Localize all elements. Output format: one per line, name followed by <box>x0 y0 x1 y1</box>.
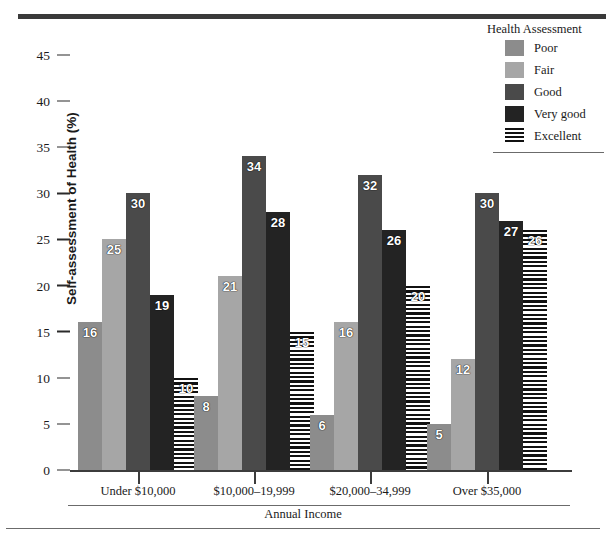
x-axis-label: $10,000–19,999 <box>213 484 294 499</box>
bar-value-label: 30 <box>126 196 150 211</box>
x-axis-label: $20,000–34,999 <box>329 484 410 499</box>
bar-value-label: 19 <box>150 298 174 313</box>
y-axis-tick-label: 40 <box>37 95 51 108</box>
bar-value-label: 28 <box>266 215 290 230</box>
bar-group: 512302726 <box>427 55 547 470</box>
y-axis-tick-mark <box>57 331 70 333</box>
y-axis-tick-label: 30 <box>37 187 51 200</box>
y-axis-tick-mark <box>57 285 70 287</box>
y-axis-tick-40: 40 <box>8 95 70 108</box>
x-axis-label: Under $10,000 <box>101 484 176 499</box>
y-axis-tick-label: 10 <box>37 371 51 384</box>
y-axis-tick-mark <box>57 377 70 379</box>
y-axis-tick-label: 15 <box>37 325 51 338</box>
legend-title: Health Assessment <box>487 22 606 37</box>
bar-value-label: 30 <box>475 196 499 211</box>
y-axis-tick-label: 20 <box>37 279 51 292</box>
plot-area: Self-assessment of Health (%) 0510152025… <box>70 55 570 470</box>
bar-value-label: 5 <box>427 427 451 442</box>
x-axis-title: Annual Income <box>0 507 606 522</box>
bar-group: 821342815 <box>194 55 314 470</box>
bar-good[interactable]: 34 <box>242 156 266 470</box>
bar-value-label: 32 <box>358 178 382 193</box>
y-axis-tick-5: 5 <box>8 417 70 430</box>
bar-very-good[interactable]: 28 <box>266 212 290 470</box>
bar-value-label: 6 <box>310 418 334 433</box>
bar-value-label: 21 <box>218 279 242 294</box>
y-axis-tick-25: 25 <box>8 233 70 246</box>
bar-very-good[interactable]: 27 <box>499 221 523 470</box>
bar-value-label: 25 <box>102 242 126 257</box>
bar-poor[interactable]: 6 <box>310 415 334 470</box>
bar-good[interactable]: 30 <box>475 193 499 470</box>
y-axis-tick-20: 20 <box>8 279 70 292</box>
y-axis-tick-label: 0 <box>43 464 50 477</box>
y-axis-tick-mark <box>57 100 70 102</box>
x-axis-line <box>70 470 572 472</box>
x-axis-tick-mark <box>370 470 372 484</box>
bar-poor[interactable]: 16 <box>78 322 102 470</box>
x-axis-tick-mark <box>254 470 256 484</box>
y-axis-tick-mark <box>57 146 70 148</box>
bar-value-label: 16 <box>334 325 358 340</box>
y-axis-tick-15: 15 <box>8 325 70 338</box>
top-divider-rule <box>18 14 606 19</box>
bar-fair[interactable]: 12 <box>451 359 475 470</box>
y-axis-tick-30: 30 <box>8 187 70 200</box>
y-axis-tick-10: 10 <box>8 371 70 384</box>
bar-value-label: 26 <box>523 233 547 248</box>
bottom-divider-rule <box>6 528 600 529</box>
y-axis-tick-mark <box>57 469 70 471</box>
bar-fair[interactable]: 25 <box>102 239 126 470</box>
bar-groups: 1625301910821342815616322620512302726 <box>70 55 570 470</box>
y-axis-tick-label: 25 <box>37 233 51 246</box>
bar-fair[interactable]: 16 <box>334 322 358 470</box>
bar-group: 616322620 <box>310 55 430 470</box>
x-axis-group-rule <box>68 505 570 506</box>
bar-value-label: 26 <box>382 233 406 248</box>
x-axis-tick-mark <box>487 470 489 484</box>
legend-label-poor: Poor <box>534 41 558 55</box>
bar-good[interactable]: 30 <box>126 193 150 470</box>
y-axis-tick-mark <box>57 239 70 241</box>
bar-value-label: 27 <box>499 224 523 239</box>
x-axis-label: Over $35,000 <box>453 484 522 499</box>
bar-poor[interactable]: 5 <box>427 424 451 470</box>
bar-value-label: 16 <box>78 325 102 340</box>
y-axis-tick-35: 35 <box>8 141 70 154</box>
bar-very-good[interactable]: 26 <box>382 230 406 470</box>
y-axis-tick-mark <box>57 423 70 425</box>
bar-good[interactable]: 32 <box>358 175 382 470</box>
bar-value-label: 12 <box>451 362 475 377</box>
legend-swatch-poor-icon <box>505 40 524 56</box>
bar-fair[interactable]: 21 <box>218 276 242 470</box>
bar-excellent[interactable]: 26 <box>523 230 547 470</box>
bar-group: 1625301910 <box>78 55 198 470</box>
y-axis-tick-label: 5 <box>43 417 50 430</box>
y-axis-tick-label: 45 <box>37 49 51 62</box>
bar-poor[interactable]: 8 <box>194 396 218 470</box>
y-axis-tick-mark <box>57 54 70 56</box>
bar-very-good[interactable]: 19 <box>150 295 174 470</box>
bar-value-label: 8 <box>194 399 218 414</box>
bar-value-label: 34 <box>242 159 266 174</box>
y-axis-tick-label: 35 <box>37 141 51 154</box>
y-axis-tick-mark <box>57 193 70 195</box>
x-axis-tick-mark <box>138 470 140 484</box>
y-axis-tick-0: 0 <box>8 464 70 477</box>
y-axis-tick-45: 45 <box>8 49 70 62</box>
